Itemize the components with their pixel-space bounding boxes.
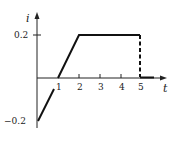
x-tick-label-5: 5 [138,82,144,92]
x-tick-label-2: 2 [77,82,83,92]
x-axis-label: t [163,82,168,95]
x-tick-label-4: 4 [119,82,125,92]
y-tick-label-pos: 0.2 [14,30,28,40]
x-axis-arrow-icon [160,76,167,81]
x-tick-label-1: 1 [56,82,62,92]
chart: i t 0.2 −0.2 1 2 3 4 5 [0,0,177,141]
y-axis-label: i [26,12,30,25]
y-tick-label-neg: −0.2 [4,116,26,126]
segment-ramp-negative [38,89,54,121]
y-axis-arrow-icon [35,12,40,19]
segment-ramp-plateau [58,35,140,78]
x-tick-label-3: 3 [98,82,104,92]
